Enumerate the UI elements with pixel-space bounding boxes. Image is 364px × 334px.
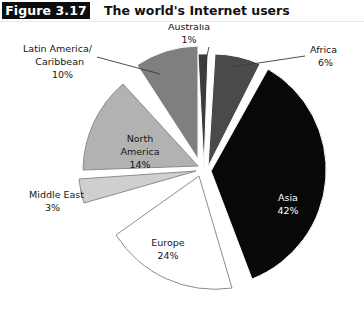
pie-label-europe-line1: Europe [151,237,185,248]
figure-number-tag: Figure 3.17 [2,2,90,19]
figure-header: Figure 3.17 The world's Internet users [0,0,364,24]
pie-slice-europe[interactable] [116,176,232,289]
header-divider [0,21,364,22]
pie-label-africa: Africa 6% [310,44,337,68]
pie-label-oceania-australia: Oceania/ Australia 1% [168,24,211,45]
pie-slice-oceania-australia[interactable] [198,54,208,168]
pie-label-asia-value: 42% [277,205,298,216]
pie-label-north-america-line1: North [127,133,154,144]
figure-root: Figure 3.17 The world's Internet users [0,0,364,334]
pie-label-north-america-value: 14% [129,159,150,170]
pie-chart-area: Latin America/ Caribbean 10% Oceania/ Au… [0,24,364,334]
pie-label-asia-line1: Asia [278,192,298,203]
pie-label-oceania-value: 1% [181,34,196,45]
pie-label-middle-east-value: 3% [45,202,60,213]
pie-label-middle-east: Middle East 3% [29,189,84,213]
pie-chart-svg: Latin America/ Caribbean 10% Oceania/ Au… [0,24,364,334]
pie-label-africa-value: 6% [318,57,333,68]
pie-label-latin-america-caribbean: Latin America/ Caribbean 10% [23,43,93,80]
pie-label-north-america-line2: America [120,146,159,157]
pie-label-oceania-line2: Australia [168,24,210,32]
pie-label-latin-america-line2: Caribbean [35,56,84,67]
pie-label-europe-value: 24% [157,250,178,261]
pie-label-latin-america-line1: Latin America/ [23,43,93,54]
figure-title: The world's Internet users [104,2,290,19]
pie-label-africa-line1: Africa [310,44,337,55]
pie-label-middle-east-line1: Middle East [29,189,84,200]
pie-label-latin-america-value: 10% [52,69,73,80]
